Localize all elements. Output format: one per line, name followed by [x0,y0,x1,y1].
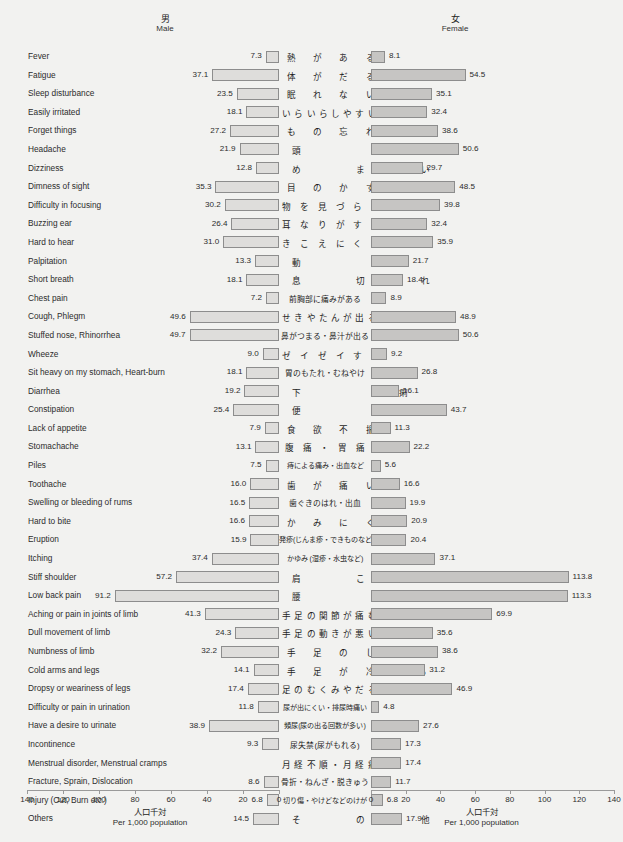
female-bar-group: 32.4 [371,215,623,234]
male-bar-group: 9.0 [0,346,279,365]
axis-tick-label: 100 [86,795,112,804]
male-bar [265,422,279,434]
row-label-jp: 手 足 の し び れ [279,646,371,658]
male-bar-group [0,755,279,774]
female-bar [371,329,459,341]
axis-tick-label: 140 [14,795,40,804]
female-bar-group: 5.6 [371,457,623,476]
chart-row: Fatigue37.1体 が だ る い54.5 [0,67,623,86]
row-label-jp: 動 悸 [279,256,371,268]
female-value-label: 38.6 [442,126,458,135]
left-axis: 140120100806040200 人口千対 Per 1,000 popula… [0,790,300,840]
male-bar-group: 21.9 [0,141,279,160]
row-label-jp: 歯 が 痛 い [279,479,371,491]
axis-tick-label: 120 [566,795,592,804]
male-bar [256,162,279,174]
female-bar-group: 11.3 [371,420,623,439]
male-bar [255,441,279,453]
chart-row: Cough, Phlegm49.6せきやたんが出る48.9 [0,308,623,327]
female-bar [371,571,569,583]
axis-tick [440,790,441,794]
male-value-label: 13.1 [236,442,252,451]
axis-tick [63,790,64,794]
female-value-label: 37.1 [439,553,455,562]
male-value-label: 13.3 [235,256,251,265]
female-value-label: 8.9 [390,293,401,302]
male-bar [250,534,279,546]
chart-row: Chest pain7.2前胸部に痛みがある8.9 [0,290,623,309]
chart-row: Aching or pain in joints of limb41.3手足の関… [0,606,623,625]
male-value-label: 37.1 [192,70,208,79]
female-bar-group: 46.9 [371,680,623,699]
left-axis-caption-en: Per 1,000 population [0,818,300,828]
female-value-label: 5.6 [385,460,396,469]
chart-row: Sleep disturbance23.5眠 れ な い35.1 [0,85,623,104]
male-value-label: 25.4 [214,405,230,414]
female-value-label: 31.2 [429,665,445,674]
female-bar [371,367,418,379]
female-bar-group: 48.9 [371,308,623,327]
male-value-label: 91.2 [95,591,111,600]
female-value-label: 19.9 [410,498,426,507]
male-bar [263,348,279,360]
female-bar-group: 50.6 [371,141,623,160]
female-bar-group: 54.5 [371,67,623,86]
female-bar [371,738,401,750]
axis-tick-label: 20 [230,795,256,804]
male-bar [240,143,279,155]
male-bar-group: 7.3 [0,48,279,67]
female-bar [371,701,379,713]
axis-tick-label: 80 [497,795,523,804]
axis-tick-label: 60 [158,795,184,804]
male-bar-group: 8.6 [0,773,279,792]
male-value-label: 18.1 [227,367,243,376]
male-header-jp: 男 [110,14,220,24]
male-bar [237,88,279,100]
male-bar-group: 7.5 [0,457,279,476]
male-bar [249,515,279,527]
female-value-label: 29.7 [427,163,443,172]
female-bar [371,385,399,397]
chart-row: Dizziness12.8め ま い29.7 [0,160,623,179]
row-label-jp: 熱 が あ る [279,51,371,63]
male-bar-group: 19.2 [0,383,279,402]
axis-tick [371,790,372,794]
female-bar-group: 8.1 [371,48,623,67]
male-bar [264,776,279,788]
male-value-label: 7.5 [250,460,261,469]
row-label-jp: 手 足 が 冷 え る [279,665,371,677]
row-label-jp: 痔による痛み・出血など [279,460,371,470]
row-label-jp: かゆみ (湿疹・水虫など) [279,553,371,563]
male-bar [225,199,279,211]
male-bar [250,478,279,490]
row-label-jp: 手足の関節が痛む [279,609,371,621]
male-value-label: 7.3 [251,51,262,60]
female-bar [371,348,387,360]
female-bar [371,106,427,118]
axis-tick [99,790,100,794]
male-bar [205,608,279,620]
row-label-jp: 腹 痛 ・ 胃 痛 [279,441,371,453]
female-bar [371,162,423,174]
male-value-label: 49.6 [170,312,186,321]
male-bar [266,292,279,304]
left-axis-line [27,790,279,791]
male-bar [212,553,279,565]
chart-row: Cold arms and legs14.1手 足 が 冷 え る31.2 [0,662,623,681]
male-bar-group: 25.4 [0,401,279,420]
female-value-label: 16.1 [403,386,419,395]
row-label-jp: 頭 痛 [279,144,371,156]
male-bar [258,701,279,713]
female-bar-group: 21.7 [371,253,623,272]
axis-tick [614,790,615,794]
male-bar-group: 37.4 [0,550,279,569]
male-bar [223,236,279,248]
female-value-label: 21.7 [413,256,429,265]
female-bar [371,757,401,769]
axis-tick [243,790,244,794]
female-bar [371,404,447,416]
chart-row: Low back pain91.2腰 痛113.3 [0,587,623,606]
female-value-label: 35.6 [437,628,453,637]
female-bar [371,683,452,695]
female-bar-group: 9.2 [371,346,623,365]
